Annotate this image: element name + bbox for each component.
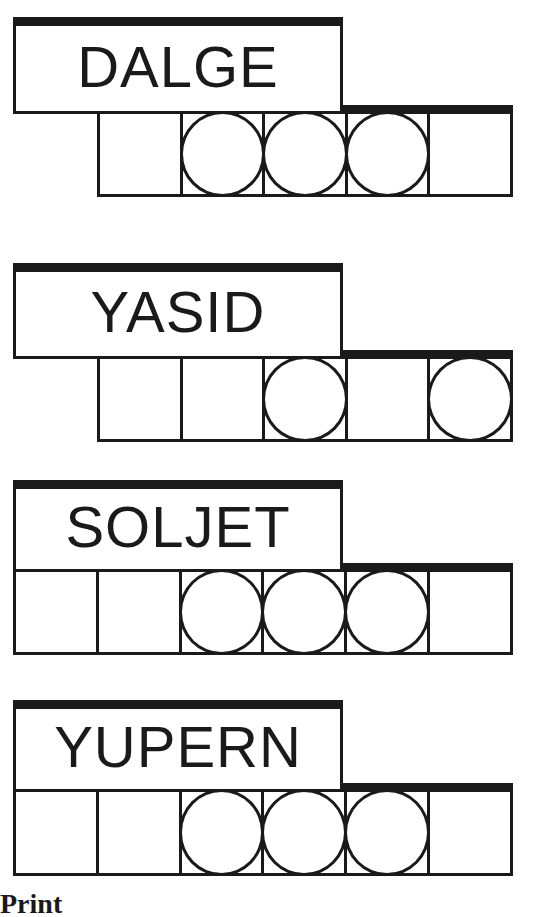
scrambled-word-box: DALGE [13,17,343,114]
answer-tile-3[interactable] [179,569,265,655]
answer-tile-4[interactable] [261,569,347,655]
circle-marker-icon [261,569,347,655]
answer-tile-4[interactable] [261,789,347,876]
scrambled-word-box: YASID [13,263,343,359]
answer-tile-6[interactable] [427,569,513,655]
circle-marker-icon [179,789,265,876]
answer-tile-3[interactable] [262,111,348,197]
answer-tile-5[interactable] [427,356,513,442]
circle-marker-icon [262,111,348,197]
answer-tile-5[interactable] [344,789,430,876]
answer-tiles [97,111,513,197]
answer-tile-3[interactable] [179,789,265,876]
answer-tiles [97,356,513,442]
circle-marker-icon [344,569,430,655]
answer-tile-1[interactable] [97,356,183,442]
answer-tile-1[interactable] [13,789,99,876]
scrambled-word: SOLJET [65,498,290,556]
answer-tile-2[interactable] [180,111,266,197]
answer-tile-4[interactable] [345,111,431,197]
answer-tile-2[interactable] [180,356,266,442]
circle-marker-icon [427,356,513,442]
answer-tile-2[interactable] [96,569,182,655]
answer-tile-5[interactable] [344,569,430,655]
footer-partial-text: Print [0,890,62,917]
answer-tile-4[interactable] [345,356,431,442]
answer-tile-1[interactable] [97,111,183,197]
circle-marker-icon [261,789,347,876]
answer-tile-1[interactable] [13,569,99,655]
scrambled-word: DALGE [77,38,279,96]
answer-tiles [13,789,513,876]
scrambled-word: YUPERN [54,718,302,776]
circle-marker-icon [179,569,265,655]
circle-marker-icon [180,111,266,197]
circle-marker-icon [345,111,431,197]
answer-tiles [13,569,513,655]
answer-tile-2[interactable] [96,789,182,876]
circle-marker-icon [262,356,348,442]
scrambled-word-box: SOLJET [13,480,343,572]
scrambled-word: YASID [91,283,266,341]
scrambled-word-box: YUPERN [13,700,343,792]
circle-marker-icon [344,789,430,876]
answer-tile-5[interactable] [427,111,513,197]
answer-tile-6[interactable] [427,789,513,876]
answer-tile-3[interactable] [262,356,348,442]
